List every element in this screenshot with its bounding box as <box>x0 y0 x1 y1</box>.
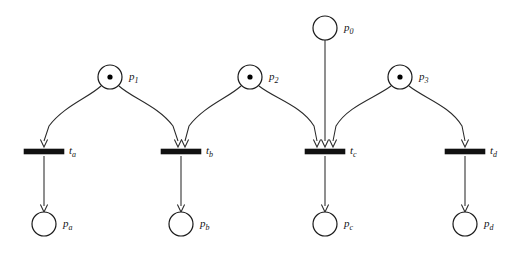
transition-bar-td[interactable] <box>445 149 485 154</box>
petri-net-diagram: tatbtctd p0p1p2p3papbpcpd <box>0 0 524 255</box>
token-dot-p3 <box>397 74 402 79</box>
transition-bar-tb[interactable] <box>161 149 201 154</box>
transition-bar-tc[interactable] <box>305 149 345 154</box>
token-dot-p2 <box>247 74 252 79</box>
place-circle-pc[interactable] <box>313 212 337 236</box>
token-dot-p1 <box>107 74 112 79</box>
place-circle-p0[interactable] <box>313 16 337 40</box>
place-circle-pb[interactable] <box>169 212 193 236</box>
transition-bar-ta[interactable] <box>24 149 64 154</box>
diagram-background <box>0 0 524 255</box>
place-circle-pd[interactable] <box>453 212 477 236</box>
place-circle-pa[interactable] <box>32 212 56 236</box>
